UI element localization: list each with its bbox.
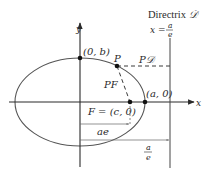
vertex-right-dot <box>143 100 148 105</box>
top-vertex-dot <box>78 56 83 61</box>
pf-segment <box>117 66 130 102</box>
ellipse-diagram: Directrix 𝒟 x = a e y x (0, b) P P𝒟 PF (… <box>0 0 208 178</box>
y-axis-label: y <box>75 24 82 34</box>
directrix-eq-num: a <box>168 21 172 30</box>
directrix-eq-den: e <box>168 30 173 39</box>
top-vertex-label: (0, b) <box>83 46 110 57</box>
point-p-dot <box>115 64 120 69</box>
focus-label: F = (c, 0) <box>87 106 136 117</box>
ae-label: ae <box>97 126 109 137</box>
focus-dot <box>128 100 133 105</box>
pd-label: P𝒟 <box>138 54 156 65</box>
directrix-label: Directrix 𝒟 <box>148 8 200 20</box>
directrix-eq-lhs: x = <box>150 25 165 35</box>
pf-label: PF <box>103 79 119 90</box>
vertex-right-label: (a, 0) <box>146 88 173 99</box>
a-over-e-den: e <box>146 153 151 162</box>
x-axis-label: x <box>196 98 201 108</box>
a-over-e-num: a <box>146 143 151 152</box>
point-p-label: P <box>113 53 121 64</box>
